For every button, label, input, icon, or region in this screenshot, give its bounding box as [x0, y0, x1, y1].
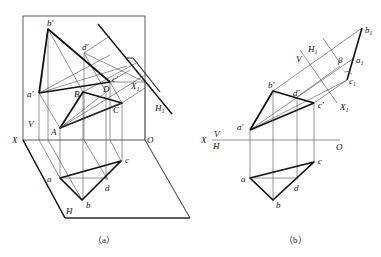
label-H1: H1 — [154, 103, 165, 114]
projector-lines-v-h1 — [39, 29, 145, 128]
label-D: D — [102, 84, 110, 94]
panel-a: b′ d′ c′ a′ B D C A V X O H a b c d X1 H… — [11, 16, 190, 245]
label-b: b — [86, 200, 91, 210]
h-plane-left-edge — [23, 140, 65, 218]
h1-plane-edge — [98, 24, 172, 114]
caption-a: （a） — [93, 235, 115, 245]
label-d-prime-b: d′ — [293, 88, 301, 98]
label-c-prime-b: c′ — [318, 100, 325, 110]
x1-axis — [300, 50, 337, 103]
label-b-prime-b: b′ — [268, 80, 276, 90]
label-d-prime: d′ — [82, 42, 90, 52]
label-c-prime: c′ — [112, 74, 119, 84]
label-X-b: X — [200, 135, 207, 145]
aux-projectors — [250, 28, 362, 130]
label-d: d — [105, 183, 110, 193]
label-a-prime-b: a′ — [237, 122, 245, 132]
label-c1: c1 — [349, 76, 356, 87]
label-A: A — [50, 127, 57, 137]
label-V-b: V — [214, 129, 221, 139]
panel-b: b1 a1 c1 V H1 β X1 b′ d′ c′ a′ X V H O a… — [200, 25, 373, 245]
label-b-prime: b′ — [47, 18, 55, 28]
triangle-v-projection-b — [250, 91, 314, 130]
label-a1: a1 — [356, 55, 364, 66]
label-c-b: c — [318, 156, 322, 166]
label-X1: X1 — [130, 81, 140, 92]
label-V: V — [28, 119, 35, 129]
label-c: c — [125, 155, 129, 165]
label-a-b: a — [241, 174, 246, 184]
label-beta: β — [337, 55, 343, 65]
caption-b: （b） — [284, 235, 307, 245]
label-V1: V — [296, 54, 303, 64]
label-O: O — [147, 135, 154, 145]
beta-angle-arc — [344, 71, 352, 74]
label-H1-b: H1 — [307, 44, 318, 55]
label-d-b: d — [294, 183, 299, 193]
triangle-h-projection — [60, 161, 121, 200]
projection-diagram: b′ d′ c′ a′ B D C A V X O H a b c d X1 H… — [0, 0, 381, 257]
label-O-b: O — [336, 142, 343, 152]
label-B: B — [74, 89, 80, 99]
label-a: a — [47, 174, 52, 184]
label-b1: b1 — [365, 25, 373, 36]
label-H-b: H — [212, 141, 220, 151]
vertical-projectors-a — [39, 29, 190, 218]
label-a-prime: a′ — [27, 89, 35, 99]
label-X: X — [11, 135, 18, 145]
triangle-h-projection-b — [250, 162, 314, 200]
label-b-b: b — [276, 200, 281, 210]
label-X1-b: X1 — [339, 102, 349, 113]
label-H: H — [65, 206, 73, 216]
label-C: C — [113, 105, 120, 115]
